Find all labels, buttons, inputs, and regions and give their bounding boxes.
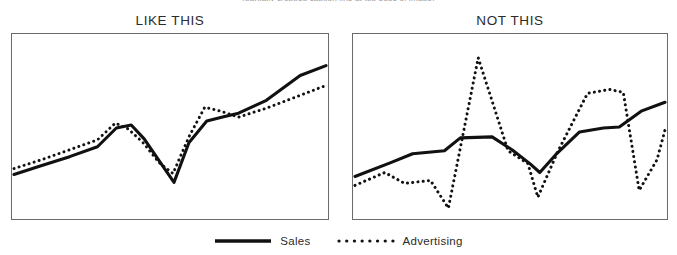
legend-label-sales: Sales [280, 235, 310, 247]
panel-title-not-this: NOT THIS [352, 13, 668, 28]
chart-panel-not-this [352, 33, 668, 220]
series-line-sales-right [355, 102, 665, 176]
series-line-advertising-right [355, 58, 665, 208]
chart-panel-like-this [11, 33, 329, 220]
panel-title-like-this: LIKE THIS [11, 13, 329, 28]
legend-swatch-dotted-line-icon [337, 236, 395, 246]
figure-root: (partially cropped caption line at top e… [0, 0, 677, 255]
legend-item-advertising: Advertising [337, 235, 463, 247]
chart-legend: Sales Advertising [0, 231, 677, 251]
chart-svg-not-this [353, 34, 667, 219]
chart-svg-like-this [12, 34, 328, 219]
legend-swatch-solid-line-icon [214, 236, 272, 246]
legend-label-advertising: Advertising [403, 235, 463, 247]
series-line-sales-left [14, 66, 326, 183]
figure-caption-cropped: (partially cropped caption line at top e… [0, 0, 677, 1]
legend-item-sales: Sales [214, 235, 310, 247]
